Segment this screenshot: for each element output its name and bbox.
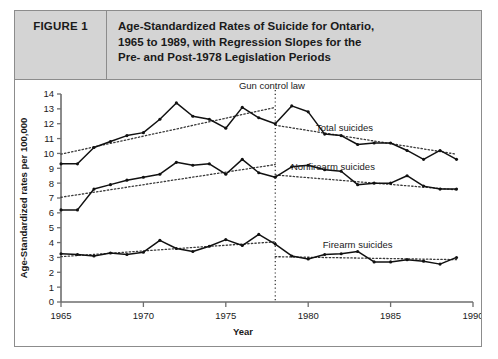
series-data-point bbox=[257, 171, 260, 174]
y-axis-title-group: Age-Standardized rates per 100,000 bbox=[18, 118, 29, 279]
series-data-point bbox=[76, 162, 79, 165]
series-data-point bbox=[274, 176, 277, 179]
regression-slope-lines bbox=[61, 107, 457, 259]
series-data-point bbox=[191, 115, 194, 118]
series-data-point bbox=[208, 118, 211, 121]
x-tick-label: 1980 bbox=[298, 310, 319, 321]
series-data-point bbox=[389, 260, 392, 263]
series-data-point bbox=[406, 258, 409, 261]
series-data-point bbox=[438, 149, 441, 152]
series-label: Firearm suicides bbox=[323, 239, 393, 250]
series-data-point bbox=[142, 176, 145, 179]
series-data-point bbox=[438, 263, 441, 266]
series-data-point bbox=[241, 244, 244, 247]
series-data-point bbox=[406, 174, 409, 177]
series-data-point bbox=[356, 250, 359, 253]
series-data-point bbox=[76, 208, 79, 211]
series-data-point bbox=[224, 173, 227, 176]
y-tick-label: 0 bbox=[49, 296, 54, 307]
x-axis-title: Year bbox=[233, 326, 253, 337]
series-data-point bbox=[208, 162, 211, 165]
y-tick-label: 6 bbox=[49, 207, 54, 218]
series-label: Nonfirearm suicides bbox=[291, 161, 375, 172]
x-tick-label: 1975 bbox=[215, 310, 236, 321]
y-axis-title: Age-Standardized rates per 100,000 bbox=[18, 118, 29, 279]
series-labels: Total suicidesNonfirearm suicidesFirearm… bbox=[291, 122, 393, 250]
series-data-point bbox=[422, 185, 425, 188]
figure-panel: FIGURE 1 Age-Standardized Rates of Suici… bbox=[14, 10, 482, 347]
x-tick-label: 1970 bbox=[133, 310, 154, 321]
series-data-point bbox=[191, 250, 194, 253]
figure-header: FIGURE 1 Age-Standardized Rates of Suici… bbox=[15, 11, 481, 80]
series-data-point bbox=[241, 106, 244, 109]
figure-title-line-1: Age-Standardized Rates of Suicide for On… bbox=[118, 19, 473, 35]
series-data-point bbox=[158, 239, 161, 242]
series-data-point bbox=[224, 238, 227, 241]
figure-number-cell: FIGURE 1 bbox=[15, 11, 107, 79]
series-data-point bbox=[125, 179, 128, 182]
series-line bbox=[61, 103, 457, 164]
y-tick-label: 13 bbox=[43, 103, 54, 114]
series-data-point bbox=[76, 253, 79, 256]
series-data-point bbox=[142, 131, 145, 134]
x-axis-ticks: 196519701975198019851990 bbox=[50, 302, 481, 321]
series-data-point bbox=[307, 257, 310, 260]
series-data-point bbox=[274, 122, 277, 125]
series-data-point bbox=[109, 251, 112, 254]
series-data-point bbox=[59, 162, 62, 165]
series-data-point bbox=[389, 141, 392, 144]
figure-title: Age-Standardized Rates of Suicide for On… bbox=[107, 11, 481, 79]
x-tick-label: 1965 bbox=[50, 310, 71, 321]
y-tick-label: 2 bbox=[49, 267, 54, 278]
series-data-point bbox=[208, 245, 211, 248]
series-data-point bbox=[175, 101, 178, 104]
series-data-point bbox=[224, 127, 227, 130]
y-tick-label: 3 bbox=[49, 252, 54, 263]
y-tick-label: 4 bbox=[49, 237, 54, 248]
series-data-point bbox=[438, 188, 441, 191]
series-data-point bbox=[422, 260, 425, 263]
series-data-point bbox=[340, 134, 343, 137]
series-data-point bbox=[241, 158, 244, 161]
series-data-point bbox=[373, 260, 376, 263]
series-data-point bbox=[257, 233, 260, 236]
series-data-point bbox=[406, 149, 409, 152]
series-data-point bbox=[422, 158, 425, 161]
series-data-point bbox=[274, 243, 277, 246]
series-data-point bbox=[373, 182, 376, 185]
series-data-point bbox=[109, 140, 112, 143]
series-data-point bbox=[158, 173, 161, 176]
series-label: Total suicides bbox=[316, 122, 373, 133]
series-data-point bbox=[290, 104, 293, 107]
chart-plot-area: Age-Standardized rates per 100,000 01234… bbox=[15, 80, 481, 346]
figure-title-line-3: Pre- and Post-1978 Legislation Periods bbox=[118, 50, 473, 66]
series-data-point bbox=[373, 141, 376, 144]
series-data-point bbox=[356, 183, 359, 186]
series-data-point bbox=[323, 253, 326, 256]
axis-lines bbox=[61, 94, 473, 302]
series-data-point bbox=[92, 146, 95, 149]
series-data-point bbox=[109, 183, 112, 186]
series-data-point bbox=[158, 118, 161, 121]
y-tick-label: 5 bbox=[49, 222, 54, 233]
series-data-point bbox=[142, 251, 145, 254]
y-tick-label: 7 bbox=[49, 192, 54, 203]
series-data-point bbox=[340, 252, 343, 255]
x-tick-label: 1990 bbox=[462, 310, 481, 321]
series-data-point bbox=[290, 254, 293, 257]
series-data-point bbox=[257, 116, 260, 119]
x-tick-label: 1985 bbox=[380, 310, 401, 321]
regression-slope-line bbox=[61, 165, 275, 198]
y-tick-label: 10 bbox=[43, 148, 54, 159]
y-tick-label: 8 bbox=[49, 178, 54, 189]
series-data-point bbox=[455, 256, 458, 259]
data-series-layer bbox=[59, 101, 458, 265]
series-data-point bbox=[125, 134, 128, 137]
series-data-point bbox=[59, 208, 62, 211]
y-tick-label: 1 bbox=[49, 282, 54, 293]
series-data-point bbox=[59, 252, 62, 255]
series-data-point bbox=[175, 161, 178, 164]
series-data-point bbox=[455, 158, 458, 161]
series-data-point bbox=[125, 253, 128, 256]
gun-control-law-label: Gun control law bbox=[239, 80, 305, 91]
